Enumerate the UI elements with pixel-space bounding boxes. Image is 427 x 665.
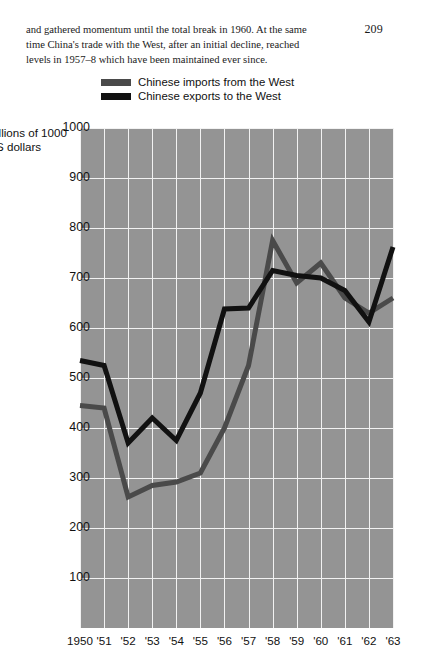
- chart-lines: [80, 128, 393, 628]
- x-axis-tick-label: '60: [313, 634, 328, 647]
- series-line-imports: [80, 241, 393, 498]
- y-axis-tick-label: 800: [69, 220, 90, 234]
- x-axis-tick-label: '51: [97, 634, 112, 647]
- y-axis-tick-label: 300: [69, 470, 90, 484]
- y-axis-tick-label: 900: [69, 170, 90, 184]
- y-axis-tick-label: 700: [69, 270, 90, 284]
- x-axis-tick-label: '53: [145, 634, 160, 647]
- x-axis-tick-label: 1950: [67, 634, 93, 647]
- y-axis-tick-label: 500: [69, 370, 90, 384]
- series-line-exports: [80, 247, 393, 443]
- x-axis-tick-label: '61: [337, 634, 352, 647]
- y-axis-tick-label: 1000: [62, 120, 90, 134]
- x-axis-tick-label: '57: [241, 634, 256, 647]
- y-axis-tick-label: 400: [69, 420, 90, 434]
- y-axis-tick-label: 200: [69, 520, 90, 534]
- x-axis-tick-label: '54: [169, 634, 184, 647]
- x-axis-tick-label: '63: [385, 634, 400, 647]
- x-axis-tick-label: '62: [361, 634, 376, 647]
- x-axis-tick-label: '55: [193, 634, 208, 647]
- gridline-vertical: [393, 128, 394, 628]
- y-axis-tick-label: 600: [69, 320, 90, 334]
- x-axis-tick-label: '56: [217, 634, 232, 647]
- x-axis-tick-label: '52: [121, 634, 136, 647]
- y-axis-tick-label: 100: [69, 570, 90, 584]
- x-axis-tick-label: '58: [265, 634, 280, 647]
- line-chart: 1000900800700600500400300200100 1950'51'…: [0, 0, 427, 665]
- x-axis-tick-label: '59: [289, 634, 304, 647]
